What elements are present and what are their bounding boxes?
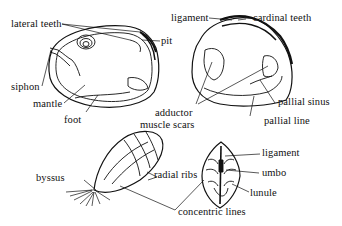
clam-soft-body-figure [49,26,159,108]
label-pit: pit [161,36,172,47]
label-foot: foot [64,115,81,126]
label-umbo: umbo [262,168,286,179]
label-pallial-sinus: pallial sinus [278,97,330,108]
label-radial-ribs: radial ribs [154,170,197,181]
label-cardinal-teeth: cardinal teeth [253,13,311,24]
label-concentric-lines: concentric lines [178,207,246,218]
label-byssus: byssus [36,173,65,184]
label-pallial-line: pallial line [264,116,310,127]
label-ligament-dorsal: ligament [262,148,300,159]
label-mantle: mantle [33,99,62,110]
mussel-figure [66,131,163,206]
label-siphon: siphon [11,82,40,93]
label-lunule: lunule [250,188,277,199]
label-muscle-scars: muscle scars [140,120,195,131]
label-ligament-top: ligament [171,13,209,24]
label-adductor: adductor [155,108,193,119]
shell-dorsal-figure [202,142,240,208]
clam-shell-interior-figure [192,16,292,106]
label-lateral-teeth: lateral teeth [11,19,62,30]
